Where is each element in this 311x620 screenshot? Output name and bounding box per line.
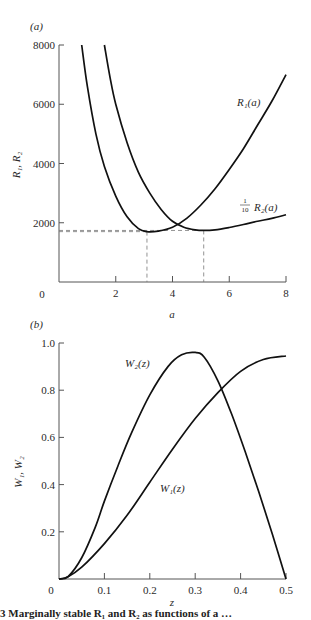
y-tick-label: 0.2 — [41, 526, 55, 538]
w2-curve-label: W₂(z) — [125, 357, 150, 370]
r1-curve-label: R₁(a) — [236, 96, 261, 109]
panel-a-label: (a) — [30, 20, 43, 33]
curve-w2-z- — [59, 352, 286, 579]
y-tick-label: 0.8 — [41, 384, 55, 396]
panel-b-axes: 0.20.40.60.81.00.10.20.30.40.5 — [41, 337, 293, 596]
panel-a-axes: 20004000600080002468 — [33, 39, 289, 299]
y-tick-label: 0.6 — [41, 431, 55, 443]
r2-fraction-numerator: 1 — [243, 197, 247, 205]
y-tick-label: 2000 — [33, 217, 56, 229]
panel-b-label: (b) — [30, 318, 43, 331]
y-tick-label: 1.0 — [41, 337, 55, 349]
panel-b-y-axis-title: W₁, W₂ — [12, 456, 24, 488]
r2-fraction-denominator: 10 — [242, 206, 250, 214]
x-tick-label: 0.3 — [188, 584, 202, 596]
figure-caption: 3 Marginally stable R₁ and R₂ as functio… — [0, 607, 311, 619]
x-tick-label: 6 — [227, 287, 233, 299]
panel-a-y-axis-title: R₁, R₂ — [10, 152, 22, 180]
x-tick-label: 0.4 — [234, 584, 248, 596]
y-tick-label: 6000 — [33, 98, 56, 110]
x-tick-label: 4 — [170, 287, 176, 299]
panel-b-origin-label: 0 — [48, 584, 54, 596]
figure-canvas: (a) 20004000600080002468 0 a R₁, R₂ R₁(a… — [0, 0, 311, 620]
x-tick-label: 0.1 — [98, 584, 112, 596]
panel-a-origin-label: 0 — [39, 288, 45, 300]
x-tick-label: 0.2 — [143, 584, 157, 596]
x-tick-label: 8 — [283, 287, 289, 299]
panel-b-chart: (b) 0.20.40.60.81.00.10.20.30.40.5 0 z W… — [12, 318, 293, 608]
r2-curve-label: R₂(a) — [253, 201, 278, 214]
panel-a-dashed-guides — [59, 230, 204, 282]
panel-a-x-axis-title: a — [169, 308, 175, 320]
curve-w1-z- — [59, 356, 286, 579]
panel-a-chart: (a) 20004000600080002468 0 a R₁, R₂ R₁(a… — [10, 20, 289, 320]
x-tick-label: 2 — [113, 287, 119, 299]
x-tick-label: 0.5 — [279, 584, 293, 596]
y-tick-label: 0.4 — [41, 479, 55, 491]
w1-curve-label: W₁(z) — [160, 482, 185, 495]
panel-b-curves — [59, 352, 286, 579]
y-tick-label: 4000 — [33, 158, 56, 170]
y-tick-label: 8000 — [33, 39, 56, 51]
